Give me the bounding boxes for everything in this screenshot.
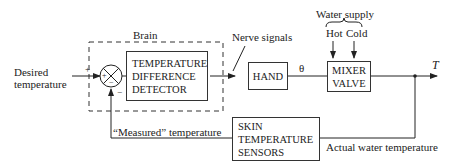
input-sign: + <box>85 63 90 75</box>
cold-label: Cold <box>346 27 367 39</box>
mixer-line2: VALVE <box>328 77 370 90</box>
water-supply-label: Water supply <box>316 8 374 20</box>
output-label: T <box>432 59 439 71</box>
input-label-line2: temperature <box>14 78 67 90</box>
skin-temperature-sensors-block: SKIN TEMPERATURE SENSORS <box>232 117 320 161</box>
sensors-line1: SKIN <box>238 120 319 133</box>
sensors-line2: TEMPERATURE <box>238 133 319 146</box>
summing-plus: + <box>102 70 107 82</box>
measured-temperature-label: “Measured” temperature <box>113 126 221 138</box>
hand-label: HAND <box>249 70 287 83</box>
theta-label: θ <box>299 62 304 74</box>
detector-line3: DETECTOR <box>132 83 207 96</box>
detector-line2: DIFFERENCE <box>132 70 207 83</box>
brain-label: Brain <box>133 29 157 41</box>
actual-water-temperature-label: Actual water temperature <box>326 141 438 153</box>
hand-block: HAND <box>248 62 288 90</box>
summing-minus: − <box>109 77 114 89</box>
hot-label: Hot <box>326 27 343 39</box>
nerve-signals-pointer <box>233 46 245 71</box>
temperature-difference-detector: TEMPERATURE DIFFERENCE DETECTOR <box>126 51 208 101</box>
sensors-line3: SENSORS <box>238 146 319 159</box>
mixer-valve-block: MIXER VALVE <box>327 61 371 92</box>
nerve-signals-label: Nerve signals <box>232 31 292 43</box>
input-label-line1: Desired <box>14 66 48 78</box>
feedback-sign: − <box>117 86 122 98</box>
detector-line1: TEMPERATURE <box>132 57 207 70</box>
mixer-line1: MIXER <box>328 64 370 77</box>
